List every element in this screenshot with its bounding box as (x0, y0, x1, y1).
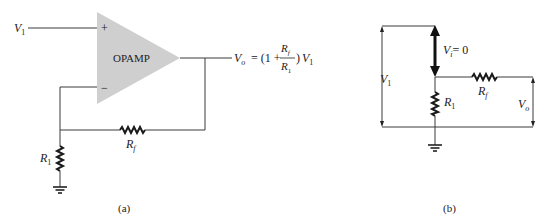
v1-label-b: V1 (380, 72, 391, 88)
svg-text:): ) (296, 51, 300, 65)
output-equation: Vo = (1 + Rf R1 ) V1 (234, 42, 313, 75)
svg-text:= (1 +: = (1 + (251, 51, 281, 65)
rf-resistor-b (472, 74, 497, 80)
svg-text:R1: R1 (280, 60, 292, 75)
opamp-label: OPAMP (113, 52, 150, 64)
caption-b: (b) (443, 202, 456, 215)
ground-icon-b (428, 145, 442, 151)
vo-label-b: Vo (518, 97, 529, 113)
plus-sign: + (101, 21, 108, 35)
r1-resistor (57, 146, 63, 171)
r1-label: R1 (39, 151, 51, 167)
vi-label: Vi= 0 (443, 43, 468, 59)
rf-resistor (120, 127, 145, 133)
rf-label-b: Rf (477, 84, 489, 100)
svg-text:V1: V1 (302, 51, 313, 67)
vi-double-arrow-icon (430, 25, 440, 77)
r1-label-b: R1 (443, 95, 455, 111)
rf-label: Rf (125, 137, 137, 153)
svg-text:Rf: Rf (280, 42, 291, 57)
svg-text:Vo: Vo (234, 51, 245, 67)
caption-a: (a) (118, 202, 131, 215)
inverting-input-wire (60, 87, 97, 130)
input-v1-label: V1 (14, 21, 25, 37)
circuit-diagram: OPAMP + − V1 Rf R1 (0, 0, 553, 222)
minus-sign: − (101, 81, 108, 95)
panel-b-equivalent-circuit: V1 Vi= 0 Rf R1 (380, 25, 535, 215)
r1-resistor-b (432, 92, 438, 116)
panel-a-noninverting-amplifier: OPAMP + − V1 Rf R1 (14, 12, 313, 215)
arrow-down-icon (380, 121, 384, 127)
arrow-up-icon (380, 26, 384, 32)
ground-icon (53, 187, 67, 193)
